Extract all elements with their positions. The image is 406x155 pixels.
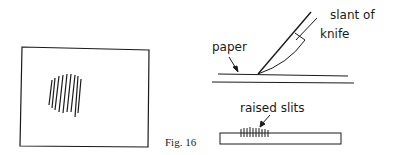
- label-raised-slits: raised slits: [240, 101, 305, 115]
- label-knife: knife: [320, 27, 350, 41]
- figure-caption: Fig. 16: [165, 136, 197, 148]
- knife-icon: [258, 12, 317, 74]
- raised-slits-arrow: [260, 115, 270, 127]
- paper-arrow: [229, 57, 238, 72]
- figure-16-diagram: Fig. 16 paper slant of knife: [0, 0, 406, 155]
- label-slant-of: slant of: [330, 8, 375, 22]
- raised-slits-diagram: [220, 115, 341, 144]
- label-paper: paper: [212, 40, 247, 54]
- slits-cluster: [49, 74, 81, 117]
- paper-sheet-topview: [20, 47, 149, 147]
- raised-slits-marks: [241, 127, 268, 137]
